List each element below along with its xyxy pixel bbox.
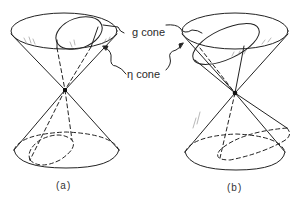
g-cone-label: g cone (132, 27, 165, 38)
caption-b: (b) (227, 182, 242, 193)
eta-cone-label: η cone (127, 69, 160, 80)
caption-a: (a) (56, 180, 71, 191)
apex-b (233, 91, 238, 96)
apex-a (63, 88, 67, 92)
eta-cone-pointer-b (166, 45, 181, 70)
eta-cone-pointer-a (106, 48, 126, 74)
g-cone-pointer-a (103, 25, 124, 33)
light-cone-diagram: g cone η cone (a) (b) (0, 0, 302, 200)
panel-b-g-cone (187, 15, 290, 160)
